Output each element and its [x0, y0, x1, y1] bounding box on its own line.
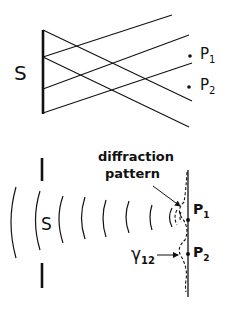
point-p2-dot — [186, 252, 190, 256]
point-p2-dot — [187, 85, 191, 89]
ray-line — [43, 30, 192, 101]
point-p1-dot — [186, 218, 190, 222]
top-panel: S P1 P2 — [14, 15, 215, 127]
wavefront-arc — [126, 201, 129, 233]
wavefront-arc — [11, 187, 16, 258]
top-source-label: S — [14, 61, 27, 85]
bottom-source-label: S — [41, 214, 52, 234]
bottom-panel: diffraction pattern S P1 P2 γ12 — [11, 149, 210, 297]
gamma-label: γ12 — [131, 244, 155, 266]
ray-line — [43, 35, 189, 89]
point-p1-dot — [188, 54, 192, 58]
wavefront-arc — [59, 196, 63, 243]
diffraction-label: diffraction — [98, 149, 174, 164]
wavefront-arc — [103, 200, 106, 237]
wavefront-arc-dashed — [175, 210, 177, 225]
wavefront-arcs — [11, 187, 181, 258]
bottom-p2-label: P2 — [193, 244, 210, 263]
wavefront-arc — [36, 191, 41, 250]
ray-line — [43, 15, 172, 57]
bottom-p1-label: P1 — [193, 201, 210, 220]
ray-lines — [43, 15, 192, 127]
top-p1-label: P1 — [200, 45, 215, 65]
top-p2-label: P2 — [200, 76, 215, 96]
diffraction-pattern-curve — [179, 172, 187, 292]
pattern-arrow — [153, 186, 180, 206]
ray-line — [43, 57, 189, 127]
wavefront-arc — [150, 205, 152, 230]
ray-line — [43, 63, 192, 113]
diagram-canvas: S P1 P2 diffraction pattern S — [0, 0, 231, 311]
pattern-label: pattern — [105, 166, 160, 181]
wavefront-arc — [170, 208, 173, 227]
wavefront-arc — [82, 197, 86, 239]
